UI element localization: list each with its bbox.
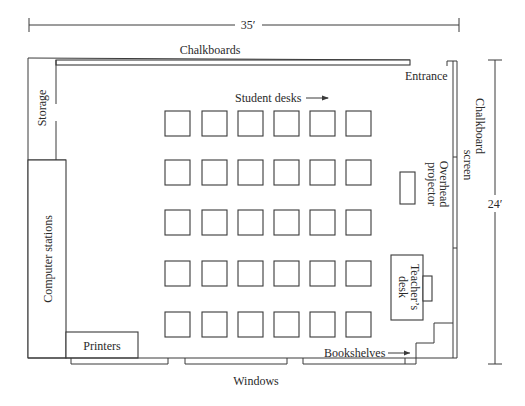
chalkboards-label: Chalkboards — [180, 43, 241, 57]
student-desk — [274, 111, 299, 136]
bookshelves-label: Bookshelves — [324, 346, 386, 360]
student-desk — [310, 111, 335, 136]
student-desk — [310, 261, 335, 286]
printers-label: Printers — [83, 339, 121, 353]
student-desk — [165, 160, 190, 185]
storage-label: Storage — [35, 90, 49, 127]
student-desk — [346, 312, 371, 337]
student-desk — [274, 210, 299, 235]
chalkboard-screen-label-2: screen — [461, 150, 475, 181]
student-desk — [202, 111, 227, 136]
student-desk — [202, 210, 227, 235]
student-desk — [238, 160, 263, 185]
student-desk — [238, 111, 263, 136]
width-label: 35′ — [241, 18, 256, 32]
student-desk — [310, 210, 335, 235]
student-desks-label: Student desks — [235, 91, 302, 105]
student-desk — [202, 261, 227, 286]
entrance-label: Entrance — [405, 69, 448, 83]
student-desk — [202, 160, 227, 185]
student-desk — [346, 261, 371, 286]
overhead-projector: Overhead projector — [400, 161, 451, 208]
windows: Windows — [28, 358, 457, 388]
teachers-desk: Teacher’s desk — [391, 255, 432, 320]
student-desk — [274, 312, 299, 337]
student-desk — [238, 312, 263, 337]
windows-label: Windows — [233, 374, 279, 388]
chalkboard-screen: Chalkboard screen — [453, 98, 487, 248]
student-desk — [238, 210, 263, 235]
storage: Storage — [28, 60, 66, 160]
chalkboard-screen-label-1: Chalkboard — [473, 98, 487, 154]
computer-stations-label: Computer stations — [41, 215, 55, 303]
student-desk — [346, 160, 371, 185]
printers: Printers — [66, 332, 138, 358]
student-desk — [274, 160, 299, 185]
teachers-desk-label-2: desk — [396, 276, 410, 298]
height-label: 24′ — [488, 197, 503, 211]
chalkboards — [28, 58, 410, 65]
student-desk — [346, 210, 371, 235]
student-desk — [274, 261, 299, 286]
student-desk — [202, 312, 227, 337]
student-desk — [238, 261, 263, 286]
computer-stations: Computer stations — [28, 160, 66, 358]
bookshelves-arrowhead-icon — [404, 351, 410, 356]
student-desks-arrow — [306, 96, 329, 101]
student-desk — [310, 312, 335, 337]
entrance-door — [447, 61, 457, 66]
student-desk — [165, 111, 190, 136]
arrow-right-icon — [322, 96, 329, 101]
right-wall — [453, 61, 457, 358]
student-desks — [165, 111, 371, 337]
overhead-projector-label-2: projector — [425, 162, 439, 205]
classroom-floor-plan: 35′ 24′ Chalkboards Entrance Storage Com… — [0, 0, 525, 406]
student-desk — [165, 312, 190, 337]
height-dimension: 24′ — [488, 60, 503, 364]
student-desk — [346, 111, 371, 136]
student-desk — [165, 210, 190, 235]
student-desk — [310, 160, 335, 185]
width-dimension: 35′ — [29, 18, 459, 32]
student-desk — [165, 261, 190, 286]
